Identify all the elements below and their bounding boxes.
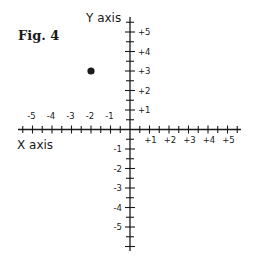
y-tick-label: -5 [114, 222, 122, 232]
y-tick-label: -3 [114, 183, 122, 193]
coordinate-plane-figure: Fig. 4 Y axis X axis -5-4-3-2-1+1+2+3+4+… [0, 0, 255, 266]
figure-title: Fig. 4 [18, 28, 59, 43]
y-tick-label: +2 [138, 86, 151, 96]
y-tick-label: -4 [114, 203, 122, 213]
plotted-points [87, 67, 94, 74]
x-tick-label: +3 [183, 135, 196, 145]
x-tick-label: +1 [144, 135, 157, 145]
x-tick-label: -1 [105, 111, 113, 121]
x-tick-label: +4 [203, 135, 216, 145]
y-tick-label: +4 [138, 47, 151, 57]
x-axis-title: X axis [17, 138, 53, 152]
y-axis-title: Y axis [85, 11, 121, 25]
y-tick-label: -2 [114, 164, 122, 174]
x-tick-label: -4 [47, 111, 55, 121]
x-tick-label: -3 [66, 111, 74, 121]
y-tick-label: +5 [138, 27, 151, 37]
y-tick-label: +3 [138, 66, 151, 76]
x-tick-label: +5 [222, 135, 235, 145]
y-tick-label: +1 [138, 105, 151, 115]
x-tick-label: -5 [27, 111, 35, 121]
x-tick-label: -2 [86, 111, 94, 121]
x-tick-label: +2 [164, 135, 177, 145]
y-tick-label: -1 [114, 144, 122, 154]
plotted-point [87, 67, 94, 74]
